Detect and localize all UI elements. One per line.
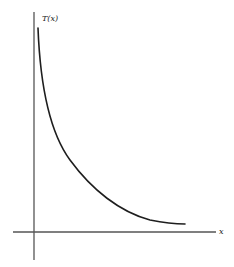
y-axis-label: T(x) (42, 15, 58, 23)
x-axis-label: x (219, 228, 224, 236)
decay-curve (38, 28, 185, 224)
plot-area (0, 0, 234, 267)
